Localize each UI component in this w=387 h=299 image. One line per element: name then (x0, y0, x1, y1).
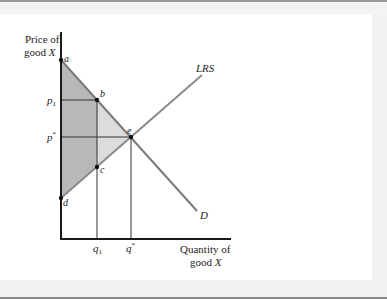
point-c-label: c (100, 164, 105, 175)
qstar-superscript: * (132, 241, 136, 249)
q1-subscript: 1 (99, 248, 103, 256)
price-pstar-label: p* (46, 130, 57, 143)
point-b-marker (95, 98, 99, 102)
point-d-label: d (63, 197, 69, 208)
point-a-label: a (64, 53, 69, 64)
pstar-superscript: * (53, 130, 57, 138)
y-axis-label-word: good (24, 46, 47, 58)
y-axis-label-var: X (48, 46, 57, 58)
point-c-marker (95, 165, 99, 169)
x-axis-label-line1: Quantity of (180, 243, 231, 255)
deadweight-loss-diagram: Price of good X Quantity of good X LRS D… (0, 0, 387, 299)
price-p1-label: p1 (46, 94, 57, 108)
point-e-label: e (127, 125, 132, 136)
p1-subscript: 1 (53, 100, 57, 108)
quantity-qstar-label: q* (126, 241, 136, 254)
x-axis-label-word: good (190, 256, 213, 268)
y-axis-label-line1: Price of (25, 33, 60, 45)
x-axis-label-var: X (214, 256, 223, 268)
point-a-marker (59, 58, 63, 62)
point-b-label: b (100, 88, 105, 99)
quantity-q1-label: q1 (93, 242, 103, 256)
demand-label: D (199, 209, 208, 221)
lrs-label: LRS (195, 62, 215, 74)
x-axis-label-line2: good X (190, 256, 223, 268)
y-axis-label-line2: good X (24, 46, 57, 58)
